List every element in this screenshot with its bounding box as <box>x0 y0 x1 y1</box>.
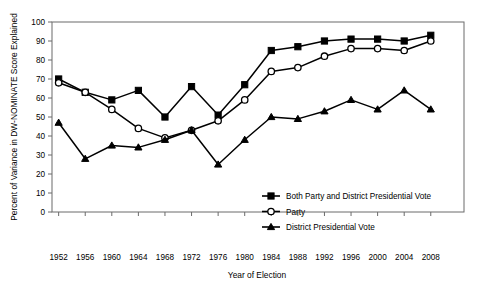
data-point-marker <box>188 84 194 90</box>
x-tick-label: 2000 <box>369 253 388 262</box>
data-point-marker <box>321 38 327 44</box>
x-axis-title: Year of Election <box>228 270 287 280</box>
y-tick-label: 30 <box>36 151 46 160</box>
data-point-marker <box>242 97 248 103</box>
legend-label: District Presidential Vote <box>286 223 375 232</box>
legend-label: Both Party and District Presidential Vot… <box>286 192 432 201</box>
x-tick-label: 1984 <box>262 253 281 262</box>
data-point-marker <box>401 47 407 53</box>
y-tick-label: 20 <box>36 170 46 179</box>
data-point-marker <box>374 45 380 51</box>
x-tick-label: 1976 <box>209 253 228 262</box>
data-point-marker <box>162 114 168 120</box>
x-tick-label: 1968 <box>156 253 175 262</box>
data-point-marker <box>268 47 274 53</box>
data-point-marker <box>135 125 141 131</box>
data-point-marker <box>295 64 301 70</box>
data-point-marker <box>268 68 274 74</box>
x-tick-label: 1960 <box>103 253 122 262</box>
x-tick-label: 1952 <box>50 253 69 262</box>
x-axis-tick-labels: 1952195619601964196819721976198019841988… <box>50 253 441 262</box>
y-tick-label: 90 <box>36 37 46 46</box>
y-axis-title: Percent of Variance in DW-NOMINATE Score… <box>9 13 19 221</box>
x-tick-label: 1972 <box>182 253 201 262</box>
line-chart: 0102030405060708090100 19521956196019641… <box>0 0 486 299</box>
data-point-marker <box>135 87 141 93</box>
data-point-marker <box>375 36 381 42</box>
y-tick-label: 50 <box>36 113 46 122</box>
chart-figure: 0102030405060708090100 19521956196019641… <box>0 0 486 299</box>
x-tick-label: 1956 <box>76 253 95 262</box>
y-tick-label: 0 <box>40 208 45 217</box>
data-point-marker <box>215 118 221 124</box>
legend-label: Party <box>286 208 306 217</box>
x-tick-label: 1980 <box>236 253 255 262</box>
data-point-marker <box>348 36 354 42</box>
y-tick-label: 100 <box>31 18 45 27</box>
data-point-marker <box>268 208 274 214</box>
data-point-marker <box>55 80 61 86</box>
y-tick-label: 80 <box>36 56 46 65</box>
data-point-marker <box>295 44 301 50</box>
x-tick-label: 1988 <box>289 253 308 262</box>
data-point-marker <box>268 193 274 199</box>
y-tick-label: 40 <box>36 132 46 141</box>
x-tick-label: 2004 <box>395 253 414 262</box>
x-tick-label: 1996 <box>342 253 361 262</box>
data-point-marker <box>321 53 327 59</box>
legend-item-0: Both Party and District Presidential Vot… <box>262 192 432 201</box>
data-point-marker <box>428 38 434 44</box>
x-tick-label: 1992 <box>315 253 334 262</box>
data-point-marker <box>109 97 115 103</box>
data-point-marker <box>401 38 407 44</box>
y-tick-label: 60 <box>36 94 46 103</box>
x-tick-label: 2008 <box>422 253 441 262</box>
data-point-marker <box>109 106 115 112</box>
data-point-marker <box>242 82 248 88</box>
data-point-marker <box>82 89 88 95</box>
y-tick-label: 70 <box>36 75 46 84</box>
data-point-marker <box>348 45 354 51</box>
x-tick-label: 1964 <box>129 253 148 262</box>
y-tick-label: 10 <box>36 189 46 198</box>
